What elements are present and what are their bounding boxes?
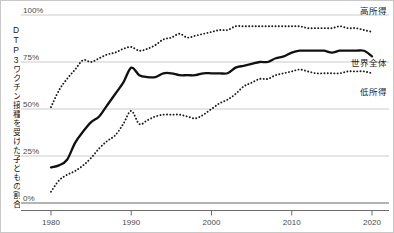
series-line-高所得 — [51, 26, 372, 107]
y-tick-label: 100% — [23, 6, 43, 15]
x-tick-label: 2000 — [203, 218, 221, 227]
x-tick-label: 1980 — [42, 218, 60, 227]
gridlines — [21, 15, 389, 203]
x-axis-tick-marks — [51, 211, 372, 216]
y-tick-label: 0% — [23, 194, 35, 203]
chart-container: DTP3ワクチン接種を受けた子どもの割合 0%25%50%75%100% 198… — [1, 1, 393, 232]
series-label-high-income: 高所得 — [360, 4, 387, 16]
chart-plot-area — [1, 1, 394, 233]
series-label-world-total: 世界全体 — [351, 56, 387, 68]
series-line-低所得 — [51, 70, 372, 192]
series-label-low-income: 低所得 — [360, 85, 387, 97]
y-tick-label: 50% — [23, 100, 39, 109]
x-tick-label: 2010 — [283, 218, 301, 227]
x-tick-label: 2020 — [363, 218, 381, 227]
x-tick-label: 1990 — [122, 218, 140, 227]
y-tick-label: 25% — [23, 147, 39, 156]
y-tick-label: 75% — [23, 53, 39, 62]
